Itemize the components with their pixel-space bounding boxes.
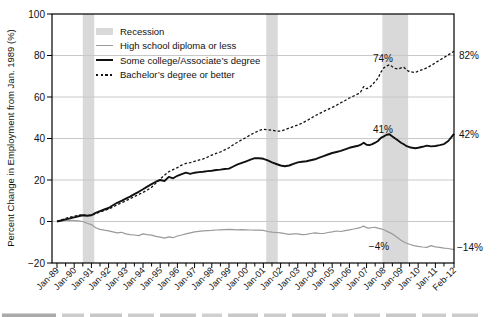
annotation-bachelors-2008: 74%	[373, 54, 393, 64]
y-tick-label: 40	[34, 133, 46, 144]
cropped-caption-fragment	[386, 314, 416, 317]
cropped-caption-fragment	[292, 314, 326, 317]
cropped-caption-fragment	[422, 314, 446, 317]
annotation-some-college-2008: 41%	[373, 125, 393, 135]
y-axis-title: Percent Change in Employment from Jan. 1…	[5, 29, 16, 247]
annotation-bachelors-end: 82%	[459, 51, 479, 61]
legend-label: High school diploma or less	[120, 41, 236, 51]
y-tick-label: 80	[34, 50, 46, 61]
recession-swatch-icon	[96, 28, 113, 35]
cropped-caption-fragment	[228, 314, 258, 317]
dashed-line-swatch-icon	[96, 74, 113, 76]
annotation-some-college-end: 42%	[459, 130, 479, 140]
legend-item-recession: Recession	[96, 24, 260, 39]
cropped-caption-fragment	[332, 314, 348, 317]
legend-item-some-college: Some college/Associate’s degree	[96, 53, 260, 68]
solid-line-swatch-icon	[96, 59, 113, 61]
gray-line-swatch-icon	[96, 45, 113, 46]
y-tick-label: −20	[28, 258, 45, 269]
legend-label: Some college/Associate’s degree	[120, 56, 260, 66]
cropped-caption-fragment	[2, 314, 56, 317]
cropped-caption-fragment	[202, 314, 222, 317]
cropped-caption-fragment	[354, 314, 380, 317]
y-tick-label: 0	[39, 216, 45, 227]
y-tick-label: 100	[28, 9, 45, 20]
cropped-caption-fragment	[264, 314, 286, 317]
annotation-high-school-2008: −4%	[369, 242, 389, 252]
legend-label: Recession	[120, 27, 164, 37]
cropped-caption-fragment	[160, 314, 196, 317]
legend-item-bachelors: Bachelor’s degree or better	[96, 68, 260, 83]
annotation-high-school-end: −14%	[457, 243, 483, 253]
employment-change-line-chart: 100806040200−20Jan-89Jan-90Jan-91Jan-92J…	[0, 0, 498, 317]
cropped-caption-fragment	[62, 314, 84, 317]
cropped-caption-fragment	[128, 314, 154, 317]
legend: Recession High school diploma or less So…	[96, 24, 260, 82]
y-tick-label: 20	[34, 175, 46, 186]
cropped-caption-fragment	[452, 314, 478, 317]
y-tick-label: 60	[34, 92, 46, 103]
legend-item-high-school: High school diploma or less	[96, 39, 260, 54]
legend-label: Bachelor’s degree or better	[120, 70, 235, 80]
cropped-caption-fragment	[90, 314, 122, 317]
